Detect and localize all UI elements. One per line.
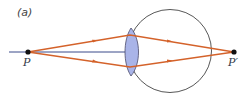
arrow-icon [92, 60, 98, 63]
arrow-icon [92, 40, 98, 43]
panel-label: (a) [17, 6, 32, 19]
image-label: P′ [227, 56, 238, 69]
eye-ray-diagram: (a) P P′ [0, 0, 243, 103]
object-label: P [22, 56, 31, 69]
eyeball-outline [129, 10, 212, 93]
image-point [231, 49, 236, 54]
object-point [25, 49, 30, 54]
